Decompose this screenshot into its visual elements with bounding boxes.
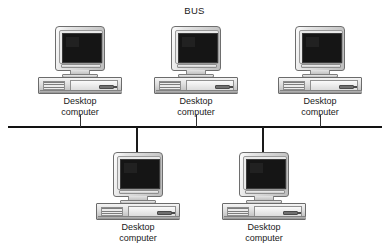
case-vents <box>101 207 123 216</box>
node-label-line2: computer <box>146 107 246 118</box>
monitor-chin <box>119 190 159 194</box>
node-label: Desktop computer <box>30 96 130 118</box>
drop-line-bottom-left <box>136 127 138 153</box>
monitor-icon <box>239 152 289 197</box>
node-label-line1: Desktop <box>146 96 246 107</box>
screen-glint <box>66 37 79 47</box>
node-label-line1: Desktop <box>88 222 188 233</box>
desktop-computer-icon <box>222 152 306 220</box>
case-base <box>40 90 122 93</box>
node-label: Desktop computer <box>270 96 370 118</box>
case-base <box>280 90 362 93</box>
case-drive-tip <box>298 212 301 214</box>
screen-glint <box>306 37 319 47</box>
diagram-title: BUS <box>0 5 389 16</box>
monitor-chin <box>177 64 217 68</box>
case-vents <box>227 207 249 216</box>
node-label-line1: Desktop <box>214 222 314 233</box>
bus-topology-diagram: BUS <box>0 0 389 252</box>
node-top-center[interactable]: Desktop computer <box>154 26 238 94</box>
screen-icon <box>120 159 160 189</box>
node-bottom-left[interactable]: Desktop computer <box>96 152 180 220</box>
monitor-chin <box>61 64 101 68</box>
monitor-icon <box>171 26 221 71</box>
node-label: Desktop computer <box>88 222 188 244</box>
case-base <box>156 90 238 93</box>
case-drive-slot <box>99 85 114 89</box>
desktop-case-icon <box>96 203 180 220</box>
case-drive-tip <box>172 212 175 214</box>
monitor-chin <box>301 64 341 68</box>
case-vents <box>159 81 181 90</box>
desktop-computer-icon <box>38 26 122 94</box>
bus-backbone-line <box>8 126 382 128</box>
node-label-line1: Desktop <box>270 96 370 107</box>
screen-icon <box>246 159 286 189</box>
screen-glint <box>182 37 195 47</box>
node-label-line1: Desktop <box>30 96 130 107</box>
node-label-line2: computer <box>214 233 314 244</box>
drop-line-bottom-right <box>262 127 264 153</box>
screen-icon <box>178 33 218 63</box>
screen-icon <box>302 33 342 63</box>
monitor-bezel <box>59 30 103 64</box>
node-label-line2: computer <box>88 233 188 244</box>
monitor-icon <box>295 26 345 71</box>
case-drive-slot <box>283 211 298 215</box>
case-drive-slot <box>215 85 230 89</box>
monitor-icon <box>113 152 163 197</box>
desktop-computer-icon <box>278 26 362 94</box>
screen-glint <box>250 163 263 173</box>
node-label-line2: computer <box>30 107 130 118</box>
node-bottom-right[interactable]: Desktop computer <box>222 152 306 220</box>
case-vents <box>43 81 65 90</box>
monitor-bezel <box>299 30 343 64</box>
case-base <box>224 216 306 219</box>
case-drive-slot <box>157 211 172 215</box>
desktop-computer-icon <box>154 26 238 94</box>
case-drive-slot <box>339 85 354 89</box>
monitor-bezel <box>243 156 287 190</box>
monitor-icon <box>55 26 105 71</box>
screen-icon <box>62 33 102 63</box>
node-label: Desktop computer <box>214 222 314 244</box>
screen-glint <box>124 163 137 173</box>
node-label: Desktop computer <box>146 96 246 118</box>
case-vents <box>283 81 305 90</box>
monitor-chin <box>245 190 285 194</box>
monitor-bezel <box>117 156 161 190</box>
case-base <box>98 216 180 219</box>
case-drive-tip <box>354 86 357 88</box>
desktop-case-icon <box>154 77 238 94</box>
case-drive-tip <box>230 86 233 88</box>
node-label-line2: computer <box>270 107 370 118</box>
case-drive-tip <box>114 86 117 88</box>
desktop-case-icon <box>278 77 362 94</box>
node-top-right[interactable]: Desktop computer <box>278 26 362 94</box>
node-top-left[interactable]: Desktop computer <box>38 26 122 94</box>
desktop-computer-icon <box>96 152 180 220</box>
monitor-bezel <box>175 30 219 64</box>
desktop-case-icon <box>222 203 306 220</box>
desktop-case-icon <box>38 77 122 94</box>
